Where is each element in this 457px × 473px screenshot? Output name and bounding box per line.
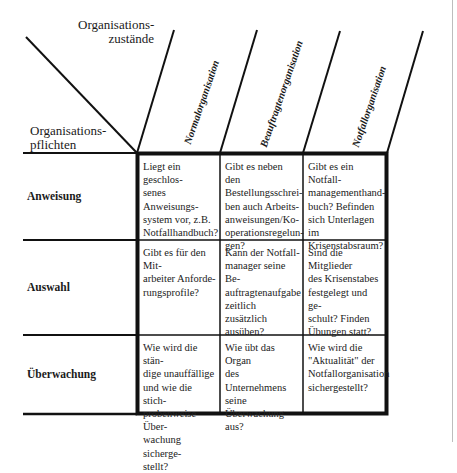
- cell-auswahl-notfall: Sind die Mitglieder des Krisenstabes fes…: [304, 242, 386, 338]
- row-label-anweisung: Anweisung: [27, 190, 81, 202]
- row-label-ueberwachung: Überwachung: [27, 368, 96, 380]
- column-divider-slant-2: [220, 30, 257, 153]
- column-divider-slant-1: [137, 30, 174, 153]
- column-divider-slant-4: [387, 31, 423, 153]
- column-divider-slant-3: [303, 31, 340, 153]
- page-edge-rule: [452, 0, 453, 442]
- cell-anweisung-beauftragten: Gibt es neben den Bestellungsschrei- ben…: [221, 156, 303, 252]
- cell-auswahl-beauftragten: Kann der Notfall- manager seine Be- auft…: [221, 242, 303, 338]
- cell-auswahl-normal: Gibt es für den Mit- arbeiter Anforde- r…: [139, 242, 220, 299]
- states-axis-label: Organisations- zustände: [78, 18, 154, 46]
- cell-ueberwachung-normal: Wie wird die stän- dige unauffällige und…: [139, 337, 220, 473]
- duties-axis-label: Organisations- pflichten: [30, 124, 106, 152]
- cell-anweisung-notfall: Gibt es ein Notfall- managementhand- buc…: [304, 156, 386, 252]
- cell-ueberwachung-notfall: Wie wird die "Aktualität" der Notfallorg…: [304, 337, 386, 394]
- row-label-auswahl: Auswahl: [27, 281, 70, 293]
- cell-anweisung-normal: Liegt ein geschlos- senes Anweisungs- sy…: [139, 156, 220, 239]
- cell-ueberwachung-beauftragten: Wie übt das Organ des Unternehmens seine…: [221, 337, 303, 433]
